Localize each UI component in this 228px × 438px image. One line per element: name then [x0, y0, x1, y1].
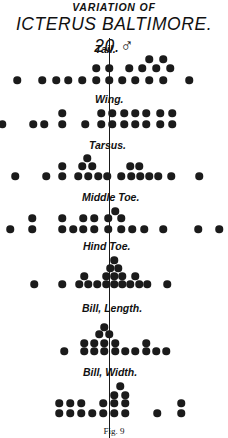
data-dot: [162, 347, 170, 355]
data-dot: [97, 109, 105, 117]
series-label: Tarsus.: [89, 139, 126, 151]
data-dot: [121, 347, 129, 355]
data-dot: [58, 172, 66, 180]
data-dot: [97, 120, 105, 128]
data-dot: [185, 76, 193, 84]
data-dot: [117, 225, 125, 233]
data-dot: [58, 109, 66, 117]
data-dot: [126, 162, 134, 170]
data-dot: [90, 225, 98, 233]
data-dot: [117, 172, 125, 180]
data-dot: [138, 64, 146, 72]
data-dot: [92, 76, 100, 84]
data-dot: [58, 214, 66, 222]
data-dot: [111, 339, 119, 347]
data-dot: [103, 172, 111, 180]
data-dot: [111, 347, 119, 355]
data-dot: [104, 214, 112, 222]
data-dot: [153, 409, 161, 417]
data-dot: [84, 280, 92, 288]
data-dot: [105, 76, 113, 84]
data-dot: [142, 347, 150, 355]
data-dot: [95, 330, 103, 338]
data-dot: [177, 399, 185, 407]
series-label: Bill, Width.: [83, 366, 137, 378]
data-dot: [13, 76, 21, 84]
series-label: Hind Toe.: [83, 240, 130, 252]
data-dot: [110, 280, 118, 288]
data-dot: [83, 154, 91, 162]
data-dot: [64, 76, 72, 84]
data-dot: [118, 76, 126, 84]
data-dot: [215, 225, 223, 233]
data-dot: [121, 391, 129, 399]
data-dot: [117, 214, 125, 222]
data-dot: [163, 280, 171, 288]
data-dot: [60, 347, 68, 355]
data-dot: [114, 264, 122, 272]
data-dot: [108, 109, 116, 117]
data-dot: [110, 272, 118, 280]
data-dot: [102, 280, 110, 288]
data-dot: [152, 347, 160, 355]
series-label: Tail.: [95, 43, 116, 55]
data-dot: [99, 409, 107, 417]
data-dot: [145, 76, 153, 84]
data-dot: [30, 280, 38, 288]
data-dot: [58, 162, 66, 170]
series-label: Wing.: [95, 93, 123, 105]
data-dot: [142, 339, 150, 347]
data-dot: [78, 76, 86, 84]
data-dot: [110, 399, 118, 407]
data-dot: [90, 347, 98, 355]
data-dot: [66, 409, 74, 417]
data-dot: [118, 272, 126, 280]
data-dot: [120, 120, 128, 128]
data-dot: [135, 162, 143, 170]
data-dot: [81, 120, 89, 128]
data-dot: [131, 347, 139, 355]
data-dot: [28, 214, 36, 222]
data-dot: [79, 225, 87, 233]
data-dot: [159, 76, 167, 84]
data-dot: [131, 272, 139, 280]
data-dot: [78, 162, 86, 170]
data-dot: [118, 280, 126, 288]
data-dot: [110, 409, 118, 417]
data-dot: [121, 399, 129, 407]
data-dot: [143, 280, 151, 288]
data-dot: [74, 172, 82, 180]
data-dot: [152, 64, 160, 72]
data-dot: [94, 172, 102, 180]
data-dot: [105, 64, 113, 72]
data-dot: [154, 172, 162, 180]
data-dot: [105, 330, 113, 338]
data-dot: [142, 109, 150, 117]
data-dot: [28, 225, 36, 233]
data-dot: [159, 225, 167, 233]
data-dot: [156, 109, 164, 117]
data-dot: [131, 109, 139, 117]
data-dot: [80, 339, 88, 347]
data-dot: [128, 225, 136, 233]
data-dot: [52, 76, 60, 84]
data-dot: [42, 172, 50, 180]
series-label: Bill, Length.: [82, 302, 142, 314]
data-dot: [195, 172, 203, 180]
data-dot: [29, 120, 37, 128]
data-dot: [58, 225, 66, 233]
data-dot: [126, 280, 134, 288]
data-dot: [58, 280, 66, 288]
data-dot: [166, 64, 174, 72]
data-dot: [127, 172, 135, 180]
data-dot: [120, 109, 128, 117]
data-dot: [159, 55, 167, 63]
data-dot: [106, 264, 114, 272]
data-dot: [99, 399, 107, 407]
data-dot: [145, 172, 153, 180]
data-dot: [84, 172, 92, 180]
data-dot: [93, 280, 101, 288]
data-dot: [110, 391, 118, 399]
data-dot: [167, 172, 175, 180]
